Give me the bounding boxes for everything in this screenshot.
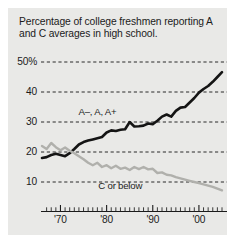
y-axis-label-30: 30 — [7, 116, 37, 127]
x-axis-label-1990: '90 — [138, 214, 168, 225]
annotation-c-or-below: C or below — [98, 180, 142, 191]
gridlines-group — [41, 62, 227, 182]
series-lines-group — [42, 72, 222, 190]
chart-plot-area — [8, 8, 227, 235]
x-axis-label-2000: '00 — [184, 214, 214, 225]
y-axis-label-40: 40 — [7, 86, 37, 97]
y-axis-label-50%: 50% — [7, 56, 37, 67]
chart-figure: Percentage of college freshmen reporting… — [8, 8, 227, 235]
x-minor-ticks-group — [47, 205, 222, 212]
y-axis-label-20: 20 — [7, 146, 37, 157]
y-axis-label-10: 10 — [7, 176, 37, 187]
annotation-a-averages: A–, A, A+ — [78, 106, 116, 117]
x-axis-label-1980: '80 — [92, 214, 122, 225]
x-axis-label-1970: '70 — [45, 214, 75, 225]
series-line-a-averages — [42, 72, 222, 158]
